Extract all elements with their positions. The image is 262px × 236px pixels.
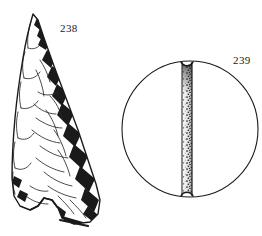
- figure-label-239: 239: [233, 54, 251, 66]
- figure-label-238: 238: [60, 22, 78, 34]
- artifact-plate: 238 239: [0, 0, 262, 236]
- plate-artwork: [0, 0, 262, 236]
- figure-238-projectile-point: [12, 14, 100, 230]
- figure-239-grooved-disc: [122, 58, 258, 200]
